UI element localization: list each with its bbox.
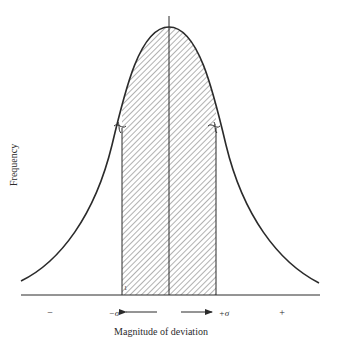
minus-sigma-label: −σ xyxy=(109,308,120,318)
normal-curve-figure: 1 − −σ +σ + Magnitude of deviation Frequ… xyxy=(0,0,337,350)
x-axis-label: Magnitude of deviation xyxy=(114,326,208,337)
plus-sign-label: + xyxy=(279,307,285,318)
plus-sigma-label: +σ xyxy=(219,308,230,318)
diagram-canvas: 1 − −σ +σ + Magnitude of deviation xyxy=(0,0,337,350)
minus-sign-label: − xyxy=(47,307,53,318)
small-mark: 1 xyxy=(124,285,127,291)
y-axis-label: Frequency xyxy=(8,144,19,186)
